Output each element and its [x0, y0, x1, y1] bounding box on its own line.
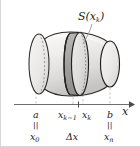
cross-section-slab — [64, 32, 89, 95]
callout-label: S(xk) — [78, 10, 104, 24]
left-cap-ellipse — [29, 34, 49, 94]
label-xk-minus-1: xk−1 — [58, 109, 77, 122]
label-xn: xn — [104, 131, 114, 144]
figure-svg: S(xk) x a xk−1 xk b || || — [0, 0, 140, 147]
axis-tick-labels: a xk−1 xk b — [33, 109, 113, 122]
equals-sign-a: || — [33, 121, 38, 130]
label-b: b — [107, 109, 113, 120]
label-delta-x: Δx — [65, 131, 79, 142]
label-a: a — [33, 109, 39, 120]
figure-root: S(xk) x a xk−1 xk b || || — [0, 0, 140, 147]
axis-sub-labels: x0 Δx xn — [30, 131, 114, 144]
x-axis-label: x — [122, 105, 129, 118]
equality-connectors: || || — [33, 121, 112, 130]
x-axis-arrowhead — [129, 101, 135, 107]
equals-sign-b: || — [107, 121, 112, 130]
right-cap-ellipse — [101, 41, 120, 87]
label-x0: x0 — [30, 131, 40, 144]
label-xk: xk — [82, 109, 91, 122]
